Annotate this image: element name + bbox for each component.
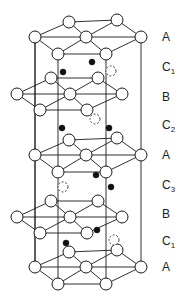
layer-a-8 <box>29 244 147 290</box>
atom-circle <box>45 195 57 207</box>
crystal-stacking-diagram: AC1BC2AC3BC1A <box>0 0 186 301</box>
atom-circle <box>64 88 76 100</box>
interstitial-c1-solid <box>89 59 95 65</box>
layer-label-subscript: 2 <box>171 125 176 134</box>
atom-circle <box>64 211 76 223</box>
atom-circle <box>11 88 23 100</box>
interstitial-c2-dashed <box>90 114 100 124</box>
interstitial-c1-solid <box>63 240 69 246</box>
interstitial-c1-solid <box>94 227 100 233</box>
layer-label-subscript: 1 <box>171 67 176 76</box>
atomic-layers <box>11 14 147 290</box>
layer-a-4 <box>29 132 147 178</box>
atom-circle <box>100 48 112 60</box>
atom-circle <box>92 72 104 84</box>
layer-label: B <box>162 90 170 104</box>
interstitial-c2-solid <box>59 125 65 131</box>
atom-circle <box>135 261 147 273</box>
interstitial-c1-dashed <box>106 66 116 76</box>
atom-circle <box>80 31 92 43</box>
layer-label: C3 <box>162 178 176 194</box>
atom-circle <box>135 149 147 161</box>
layer-label: C1 <box>162 234 176 250</box>
atom-circle <box>63 134 75 146</box>
layer-labels: AC1BC2AC3BC1A <box>162 30 176 274</box>
atom-circle <box>116 88 128 100</box>
atom-circle <box>34 104 46 116</box>
atom-circle <box>135 31 147 43</box>
bond-line <box>69 20 117 22</box>
layer-label: B <box>162 207 170 221</box>
atom-circle <box>29 149 41 161</box>
atom-circle <box>52 278 64 290</box>
atom-circle <box>100 278 112 290</box>
atom-circle <box>29 31 41 43</box>
bond-line <box>69 138 117 140</box>
atom-circle <box>52 166 64 178</box>
atom-circle <box>111 132 123 144</box>
layer-label: C1 <box>162 60 176 76</box>
atom-circle <box>34 227 46 239</box>
layer-label: C2 <box>162 118 176 134</box>
interstitial-c3-solid <box>108 184 114 190</box>
atom-circle <box>111 244 123 256</box>
atom-circle <box>80 261 92 273</box>
bond-line <box>69 250 117 252</box>
atom-circle <box>63 16 75 28</box>
layer-label-subscript: 3 <box>171 185 176 194</box>
atom-circle <box>80 149 92 161</box>
layer-b-6 <box>11 195 128 239</box>
layer-b-2 <box>11 72 128 116</box>
interstitial-c2-solid <box>106 125 112 131</box>
layer-a-0 <box>29 14 147 60</box>
interstitial-c3-dashed <box>58 182 68 192</box>
layer-label-subscript: 1 <box>171 241 176 250</box>
atom-circle <box>100 166 112 178</box>
atom-circle <box>52 48 64 60</box>
interstitial-c1-solid <box>60 69 66 75</box>
atom-circle <box>81 227 93 239</box>
layer-label: A <box>162 260 170 274</box>
atom-circle <box>11 211 23 223</box>
atom-circle <box>111 14 123 26</box>
atom-circle <box>92 195 104 207</box>
atom-circle <box>63 246 75 258</box>
layer-label: A <box>162 30 170 44</box>
atom-circle <box>45 72 57 84</box>
atom-circle <box>29 261 41 273</box>
atom-circle <box>81 104 93 116</box>
atom-circle <box>116 211 128 223</box>
diagram-canvas: AC1BC2AC3BC1A <box>0 0 186 301</box>
interstitial-c1-dashed <box>109 235 119 245</box>
layer-label: A <box>162 148 170 162</box>
interstitial-c3-solid <box>93 172 99 178</box>
